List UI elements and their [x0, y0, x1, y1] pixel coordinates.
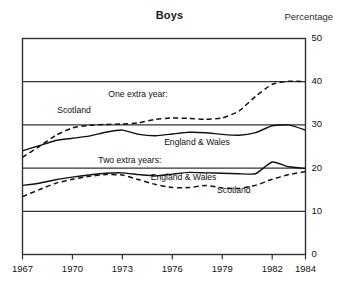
- y-tick-label-0: 0: [312, 248, 334, 259]
- x-tick-label-1984: 1984: [289, 263, 323, 274]
- y-tick-label-20: 20: [312, 162, 334, 173]
- y-tick-label-30: 30: [312, 118, 334, 129]
- chart-container: Boys Percentage 01020304050 196719701973…: [0, 0, 339, 299]
- plot-area: [0, 0, 339, 299]
- series-label-one-extra-year-england-wales: England & Wales: [164, 137, 230, 147]
- series-label-two-extra-years-england-wales: England & Wales: [151, 172, 217, 182]
- x-tick-label-1973: 1973: [105, 263, 139, 274]
- x-tick-label-1976: 1976: [155, 263, 189, 274]
- group-label-two-extra-years: Two extra years:: [98, 155, 161, 165]
- x-axis-ticks: [23, 255, 306, 260]
- x-tick-label-1970: 1970: [55, 263, 89, 274]
- series-label-one-extra-year-scotland: Scotland: [57, 105, 90, 115]
- y-tick-label-50: 50: [312, 32, 334, 43]
- x-tick-label-1967: 1967: [6, 263, 40, 274]
- x-tick-label-1982: 1982: [255, 263, 289, 274]
- y-tick-label-40: 40: [312, 75, 334, 86]
- group-label-one-extra-year: One extra year:: [108, 89, 167, 99]
- x-tick-label-1979: 1979: [205, 263, 239, 274]
- y-tick-label-10: 10: [312, 205, 334, 216]
- series-label-two-extra-years-scotland: Scotland: [217, 185, 250, 195]
